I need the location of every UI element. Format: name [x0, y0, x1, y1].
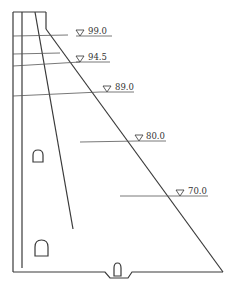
level-line-5: [80, 141, 138, 142]
level-marker-89: 89.0: [100, 82, 134, 92]
level-triangle-icon: [76, 56, 84, 62]
level-marker-70: 70.0: [176, 186, 208, 196]
gallery-base: [114, 263, 121, 276]
dam-outline: [13, 12, 223, 278]
level-line-4: [13, 92, 100, 96]
level-marker-94-5: 94.5: [76, 52, 110, 62]
gallery-upper: [33, 150, 43, 162]
level-label: 80.0: [146, 131, 165, 141]
level-triangle-icon: [76, 30, 84, 36]
downstream-slope: [46, 29, 223, 272]
level-marker-99: 99.0: [76, 26, 112, 36]
construction-joint-slanted: [35, 12, 73, 229]
level-triangle-icon: [176, 190, 184, 196]
level-label: 99.0: [88, 26, 107, 36]
level-triangle-icon: [103, 86, 111, 92]
dam-cross-section-diagram: 99.0 94.5 89.0 80.0 70.0: [0, 0, 239, 293]
level-marker-80: 80.0: [135, 131, 166, 141]
gallery-lower-left: [35, 240, 48, 256]
level-triangle-icon: [135, 135, 143, 141]
dam-base: [13, 272, 223, 278]
interior-structure: [22, 12, 73, 268]
level-line-1: [13, 35, 68, 36]
galleries: [33, 150, 121, 276]
level-line-3: [13, 62, 80, 66]
water-level-markers: 99.0 94.5 89.0 80.0 70.0: [76, 26, 208, 196]
level-line-2: [13, 53, 60, 54]
level-label: 70.0: [188, 186, 207, 196]
level-label: 89.0: [115, 82, 134, 92]
level-label: 94.5: [88, 52, 107, 62]
